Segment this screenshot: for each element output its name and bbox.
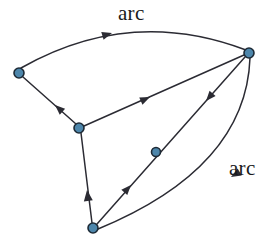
graph-canvas <box>0 0 269 238</box>
edge-path <box>21 32 246 68</box>
edge-left-middle-to-right <box>84 55 244 126</box>
edge-path <box>81 133 92 223</box>
arrowhead-icon <box>139 93 151 104</box>
arc-label-bottom: arc <box>229 158 256 179</box>
arc-label-top: arc <box>118 3 145 24</box>
node-bottom[interactable] <box>88 223 98 233</box>
edge-path <box>84 55 244 126</box>
node-middle[interactable] <box>152 148 161 157</box>
node-left-middle[interactable] <box>74 123 84 133</box>
node-left[interactable] <box>14 68 24 78</box>
edge-bottom-to-left-middle <box>81 133 93 223</box>
node-right[interactable] <box>244 48 254 58</box>
edge-left-middle-to-left <box>23 77 76 124</box>
directed-graph-diagram: arc arc <box>0 0 269 238</box>
edge-path <box>23 77 76 124</box>
edge-left-to-right-arc <box>21 29 246 68</box>
arrowhead-icon <box>83 189 93 201</box>
edge-path <box>98 58 250 229</box>
edge-right-to-bottom-arc <box>98 58 250 229</box>
